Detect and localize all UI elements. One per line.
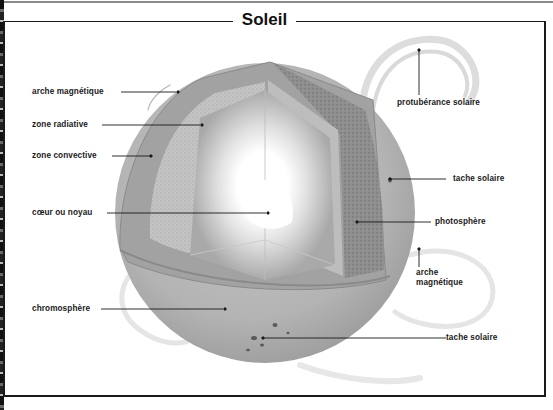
sun-illustration bbox=[0, 0, 553, 410]
label-chromosphere: chromosphère bbox=[32, 304, 90, 314]
label-tache-solaire-upper: tache solaire bbox=[453, 174, 504, 184]
label-coeur: cœur ou noyau bbox=[32, 208, 92, 218]
label-zone-convective: zone convective bbox=[32, 151, 97, 161]
label-arche-magnetique-left: arche magnétique bbox=[32, 87, 104, 97]
label-protuberance: protubérance solaire bbox=[397, 98, 480, 108]
label-tache-solaire-lower: tache solaire bbox=[446, 333, 497, 343]
label-arche-magnetique-right-2: magnétique bbox=[416, 278, 463, 288]
label-photosphere: photosphère bbox=[435, 217, 486, 227]
label-arche-magnetique-right-1: arche bbox=[416, 268, 438, 278]
label-zone-radiative: zone radiative bbox=[32, 120, 88, 130]
